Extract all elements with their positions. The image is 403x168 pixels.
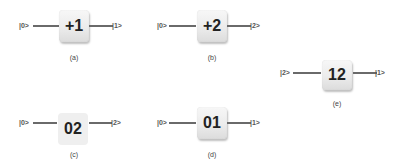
- input-wire: [33, 25, 59, 27]
- output-ket: |2>: [111, 119, 121, 127]
- output-ket: |2>: [250, 22, 260, 30]
- input-ket: |0>: [157, 119, 167, 127]
- output-ket: |1>: [250, 119, 260, 127]
- input-ket: |2>: [280, 69, 290, 77]
- caption: (e): [322, 100, 352, 107]
- input-wire: [293, 72, 321, 74]
- gate-box: 12: [322, 60, 352, 90]
- input-ket: |0>: [157, 22, 167, 30]
- input-wire: [169, 122, 196, 124]
- output-wire: [227, 25, 251, 27]
- gate-box: 02: [58, 113, 88, 145]
- input-wire: [33, 122, 57, 124]
- output-ket: |1>: [375, 69, 385, 77]
- output-ket: |1>: [112, 22, 122, 30]
- input-ket: |0>: [19, 22, 29, 30]
- caption: (c): [59, 151, 89, 158]
- caption: (d): [197, 151, 227, 158]
- output-wire: [353, 72, 377, 74]
- gate-box: 01: [197, 107, 227, 139]
- gate-box: +1: [59, 10, 89, 42]
- input-wire: [169, 25, 196, 27]
- caption: (b): [197, 54, 227, 61]
- gate-box: +2: [197, 10, 227, 42]
- output-wire: [89, 25, 113, 27]
- output-wire: [89, 122, 112, 124]
- output-wire: [227, 122, 251, 124]
- caption: (a): [59, 54, 89, 61]
- input-ket: |0>: [19, 119, 29, 127]
